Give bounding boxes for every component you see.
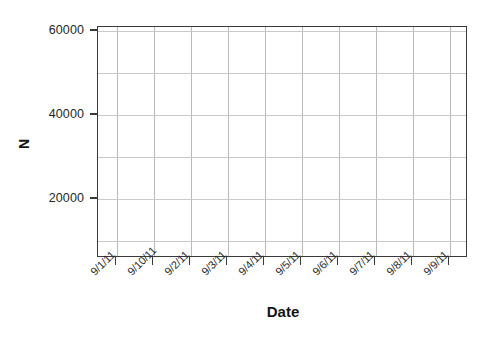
plot-area xyxy=(97,26,467,257)
gridline-horizontal xyxy=(98,157,466,158)
gridline-vertical xyxy=(339,27,340,256)
y-tick-label: 40000 xyxy=(49,107,84,121)
chart-figure: 600004000020000 N 9/1/119/10/119/2/119/3… xyxy=(0,0,490,340)
y-tick-mark xyxy=(90,197,97,199)
gridline-vertical xyxy=(117,27,118,256)
gridline-vertical xyxy=(265,27,266,256)
y-tick-mark xyxy=(90,113,97,115)
gridline-horizontal xyxy=(98,31,466,32)
y-axis-label: N xyxy=(16,139,32,149)
gridline-vertical xyxy=(191,27,192,256)
gridline-vertical xyxy=(154,27,155,256)
gridline-vertical xyxy=(302,27,303,256)
gridline-vertical xyxy=(413,27,414,256)
gridline-vertical xyxy=(228,27,229,256)
gridline-vertical xyxy=(376,27,377,256)
gridline-vertical xyxy=(450,27,451,256)
y-tick-label: 20000 xyxy=(49,191,84,205)
y-tick-label: 60000 xyxy=(49,23,84,37)
gridline-horizontal xyxy=(98,73,466,74)
gridline-horizontal xyxy=(98,199,466,200)
gridline-horizontal xyxy=(98,115,466,116)
y-tick-mark xyxy=(90,29,97,31)
gridline-horizontal xyxy=(98,241,466,242)
x-axis-label: Date xyxy=(267,303,300,320)
